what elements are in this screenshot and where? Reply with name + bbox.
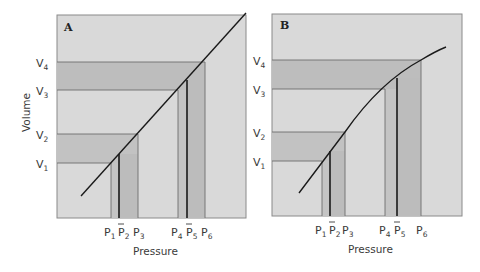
volume-axis-title: Volume xyxy=(20,93,32,132)
v1-label-b: V1 xyxy=(253,156,266,171)
p4-label-a: P4 xyxy=(171,226,183,241)
p1-label-a: P1 xyxy=(104,226,116,241)
panel-b: B xyxy=(272,14,462,216)
p6-label-b: P6 xyxy=(416,224,428,239)
panel-a-band-p5-p6 xyxy=(187,80,205,218)
pressure-axis-title-a: Pressure xyxy=(133,245,178,257)
p1-label-b: P1 xyxy=(315,224,327,239)
panel-a-y-labels: V4 V3 V2 V1 xyxy=(36,57,49,173)
panel-b-background xyxy=(272,14,462,216)
panel-a: A xyxy=(57,13,246,218)
pressure-volume-diagram: A V4 V3 V2 V1 Volume P1 P2 P3 P4 P5 P6 P… xyxy=(0,0,480,272)
v1-label-a: V1 xyxy=(36,158,49,173)
panel-b-x-labels: P1 P2 P3 P4 P5 P6 xyxy=(315,222,428,239)
p4-label-b: P4 xyxy=(379,224,391,239)
panel-b-label: B xyxy=(280,19,289,32)
p6-label-a: P6 xyxy=(201,226,213,241)
panel-a-label: A xyxy=(63,21,73,34)
panel-a-band-v3-v4 xyxy=(57,62,205,90)
panel-a-x-labels: P1 P2 P3 P4 P5 P6 xyxy=(104,224,213,241)
v2-label-a: V2 xyxy=(36,129,49,144)
p5-label-a: P5 xyxy=(186,226,198,241)
panel-b-y-labels: V4 V3 V2 V1 xyxy=(253,55,266,171)
p2-label-a: P2 xyxy=(118,226,130,241)
v4-label-a: V4 xyxy=(36,57,49,72)
p5-label-b: P5 xyxy=(394,224,406,239)
panel-b-band-p2-p3 xyxy=(330,151,345,216)
v4-label-b: V4 xyxy=(253,55,266,70)
v2-label-b: V2 xyxy=(253,127,266,142)
v3-label-a: V3 xyxy=(36,85,49,100)
p3-label-b: P3 xyxy=(342,224,354,239)
p2-label-b: P2 xyxy=(329,224,341,239)
panel-b-band-p5-p6 xyxy=(397,78,421,216)
pressure-axis-title-b: Pressure xyxy=(348,243,393,255)
p3-label-a: P3 xyxy=(133,226,145,241)
v3-label-b: V3 xyxy=(253,84,266,99)
panel-a-band-p2-p3 xyxy=(119,154,138,218)
